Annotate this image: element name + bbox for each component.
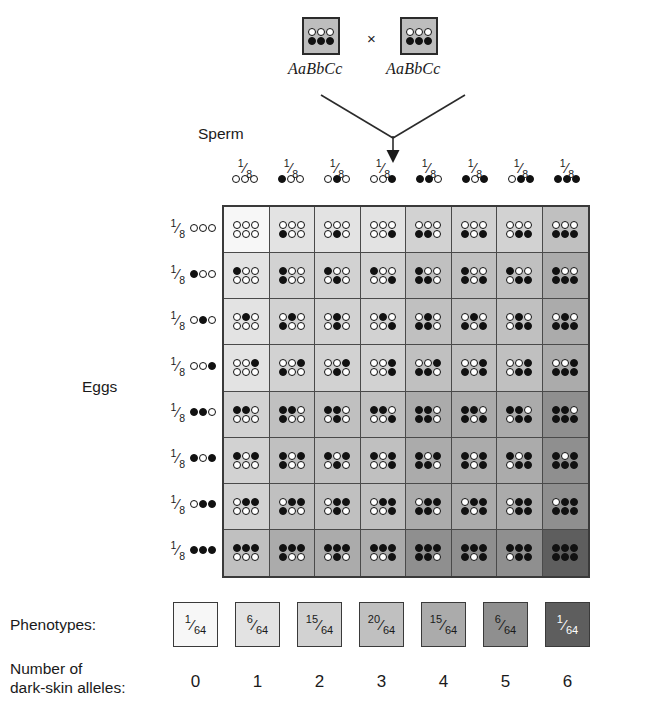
allele-dot-filled	[279, 230, 287, 238]
allele-dot-open	[279, 359, 287, 367]
offspring-genotype-dots	[279, 313, 305, 330]
allele-dot-filled	[388, 415, 396, 423]
sperm-allele-row	[506, 461, 532, 469]
allele-dot-open	[379, 230, 387, 238]
allele-dot-open	[470, 368, 478, 376]
egg-allele-row	[279, 544, 305, 552]
allele-dot-open	[251, 461, 259, 469]
allele-dot-open	[233, 221, 241, 229]
allele-dot-open	[297, 322, 305, 330]
egg-allele-row	[506, 406, 532, 414]
allele-dot-open	[190, 500, 198, 508]
allele-dot-open	[342, 553, 350, 561]
allele-dot-open	[379, 368, 387, 376]
allele-dot-open	[288, 221, 296, 229]
punnett-cell-r3-c5	[452, 345, 498, 391]
punnett-cell-r4-c2	[315, 392, 361, 438]
gamete-fraction: 1⁄8	[514, 155, 528, 183]
allele-dot-open	[433, 461, 441, 469]
allele-dot-filled	[461, 544, 469, 552]
gamete-fraction: 1⁄8	[468, 155, 482, 183]
allele-dot-filled	[552, 544, 560, 552]
allele-dot-filled	[279, 553, 287, 561]
allele-dot-open	[324, 276, 332, 284]
allele-dot-filled	[242, 406, 250, 414]
phenotype-ratio: 15⁄64	[430, 613, 457, 636]
egg-allele-row	[324, 359, 350, 367]
egg-allele-row	[370, 452, 396, 460]
allele-dot-open	[379, 553, 387, 561]
allele-dot-open	[433, 230, 441, 238]
allele-dot-open	[524, 221, 532, 229]
cross-symbol: ×	[367, 30, 376, 47]
punnett-cell-r1-c7	[543, 253, 589, 299]
allele-count-row: 0123456	[0, 672, 649, 698]
allele-dot-open	[297, 406, 305, 414]
offspring-genotype-dots	[233, 221, 259, 238]
punnett-cell-r4-c5	[452, 392, 498, 438]
allele-dot-open	[233, 498, 241, 506]
gamete-fraction: 1⁄8	[171, 493, 185, 516]
allele-dot-open	[251, 368, 259, 376]
allele-dot-open	[415, 28, 423, 36]
allele-dot-open	[288, 368, 296, 376]
punnett-cell-r5-c1	[270, 438, 316, 484]
fraction-numerator: 20	[368, 613, 380, 625]
allele-dot-open	[424, 28, 432, 36]
phenotype-ratio: 6⁄64	[495, 613, 516, 636]
allele-dot-filled	[333, 461, 341, 469]
offspring-genotype-dots	[461, 359, 487, 376]
parent-2-bottom-row	[406, 37, 432, 45]
allele-dot-open	[461, 221, 469, 229]
allele-dot-filled	[552, 322, 560, 330]
allele-dot-filled	[317, 37, 325, 45]
allele-dot-filled	[279, 461, 287, 469]
egg-allele-row	[552, 498, 578, 506]
allele-dot-filled	[297, 544, 305, 552]
allele-dot-filled	[415, 553, 423, 561]
allele-dot-filled	[370, 452, 378, 460]
gamete-dots	[190, 270, 216, 278]
allele-dot-open	[561, 267, 569, 275]
allele-dot-filled	[342, 452, 350, 460]
allele-dot-open	[433, 507, 441, 515]
allele-dot-open	[479, 406, 487, 414]
sperm-allele-row	[233, 553, 259, 561]
gamete-fraction: 1⁄8	[171, 355, 185, 378]
parent-2-genotype: AaBbCc	[386, 60, 441, 78]
allele-dot-open	[242, 507, 250, 515]
punnett-cell-r2-c7	[543, 299, 589, 345]
allele-dot-open	[479, 267, 487, 275]
allele-count-3: 3	[359, 672, 404, 692]
allele-dot-open	[506, 498, 514, 506]
allele-dot-open	[415, 221, 423, 229]
allele-dot-open	[233, 322, 241, 330]
allele-dot-open	[233, 461, 241, 469]
offspring-genotype-dots	[324, 498, 350, 515]
allele-dot-filled	[470, 313, 478, 321]
fraction-numerator: 15	[306, 613, 318, 625]
allele-dot-filled	[388, 452, 396, 460]
allele-dot-open	[470, 221, 478, 229]
allele-dot-filled	[570, 368, 578, 376]
allele-dot-filled	[515, 406, 523, 414]
egg-allele-row	[415, 544, 441, 552]
punnett-cell-r5-c7	[543, 438, 589, 484]
fraction-denominator: 8	[522, 168, 528, 180]
egg-gamete-header-3: 1⁄8	[130, 343, 216, 389]
punnett-cell-r6-c2	[315, 484, 361, 530]
allele-dot-filled	[552, 461, 560, 469]
sperm-allele-row	[461, 322, 487, 330]
sperm-allele-row	[552, 553, 578, 561]
fraction-denominator: 64	[504, 624, 516, 636]
allele-dot-open	[242, 221, 250, 229]
sperm-allele-row	[324, 322, 350, 330]
allele-dot-open	[251, 267, 259, 275]
allele-dot-open	[279, 313, 287, 321]
allele-dot-open	[342, 406, 350, 414]
allele-dot-filled	[333, 368, 341, 376]
allele-dot-open	[324, 553, 332, 561]
allele-dot-open	[342, 368, 350, 376]
sperm-allele-row	[370, 507, 396, 515]
sperm-allele-row	[552, 461, 578, 469]
